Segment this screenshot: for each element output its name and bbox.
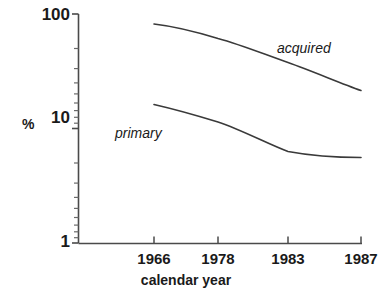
- chart-figure: 100 10 1 % 1966 1978 1983 1987 calendar …: [0, 0, 391, 304]
- y-tick-label-100: 100: [10, 5, 70, 25]
- series-label-primary: primary: [115, 125, 162, 141]
- y-tick-label-10: 10: [10, 108, 70, 128]
- x-tick-label-1983: 1983: [258, 250, 318, 267]
- x-axis-title: calendar year: [141, 272, 231, 288]
- x-tick-label-1966: 1966: [124, 250, 184, 267]
- y-tick-label-1: 1: [10, 232, 70, 252]
- y-axis-title: %: [22, 116, 34, 132]
- x-tick-label-1978: 1978: [188, 250, 248, 267]
- series-line-primary: [154, 105, 361, 158]
- x-tick-label-1987: 1987: [331, 250, 391, 267]
- x-axis-ticks: [154, 237, 361, 244]
- series-label-acquired: acquired: [277, 40, 331, 56]
- series-line-acquired: [154, 24, 361, 91]
